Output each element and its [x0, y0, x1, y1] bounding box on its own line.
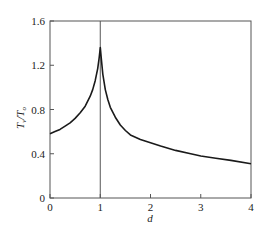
y-tick-label: 1.2 — [31, 59, 45, 71]
x-ticks: 01234 — [47, 194, 254, 213]
x-tick-label: 4 — [248, 201, 254, 213]
y-ticks: 00.40.81.21.6 — [31, 15, 54, 204]
data-curve — [50, 48, 251, 164]
chart: 00.40.81.21.6 01234 d Tv/To — [0, 0, 269, 238]
y-tick-label: 0.8 — [31, 104, 45, 116]
x-tick-label: 1 — [98, 201, 104, 213]
y-axis-label: Tv/To — [14, 107, 28, 129]
x-axis-label: d — [147, 212, 153, 224]
y-tick-label: 0 — [40, 192, 46, 204]
y-tick-label: 1.6 — [31, 15, 45, 27]
plot-frame — [50, 21, 251, 198]
x-tick-label: 3 — [198, 201, 204, 213]
svg-text:Tv/To: Tv/To — [14, 107, 28, 129]
y-tick-label: 0.4 — [31, 148, 45, 160]
x-tick-label: 0 — [47, 201, 53, 213]
